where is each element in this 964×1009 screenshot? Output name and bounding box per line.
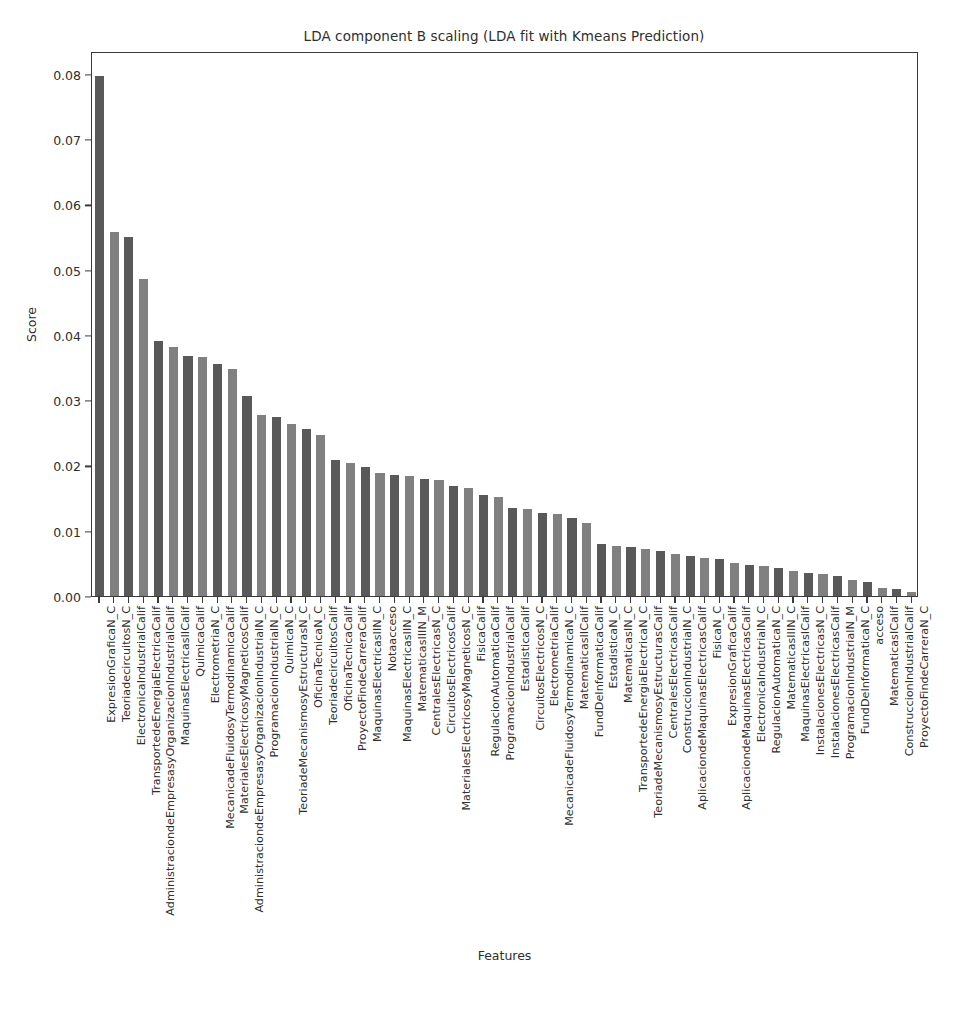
x-tick-label-text: ConstruccionIndustrialCalif xyxy=(904,606,915,756)
bar xyxy=(730,563,739,596)
x-tick-label: ExpresionGraficaCalif xyxy=(723,606,734,726)
x-tick-mark xyxy=(541,597,542,603)
x-tick-label-text: ProgramacionIndustrialN_M xyxy=(845,606,856,759)
bar xyxy=(538,513,547,596)
bar xyxy=(449,486,458,596)
x-tick-label-text: RegulacionAutomaticaN_C xyxy=(771,606,782,754)
x-tick-mark xyxy=(645,597,646,603)
x-tick-label-text: Notaacceso xyxy=(387,606,398,671)
x-tick-mark xyxy=(305,597,306,603)
x-tick-mark xyxy=(276,597,277,603)
x-tick-mark xyxy=(586,597,587,603)
x-tick-label-text: AplicaciondeMaquinasElectricasCalif xyxy=(741,606,752,810)
x-tick-mark xyxy=(128,597,129,603)
y-tick-label: 0.05 xyxy=(53,263,81,278)
bar xyxy=(686,556,695,596)
x-tick-label: MecanicadeFluidosyTermodinamicaN_C xyxy=(560,606,571,826)
x-tick-label: ElectronicaIndustrialN_C xyxy=(752,606,763,742)
x-tick-label-text: FisicaCalif xyxy=(476,606,487,662)
x-tick-label: MaquinasElectricasIICalif xyxy=(176,606,187,745)
x-tick-label-text: ProyectoFindeCarreraCalif xyxy=(357,606,368,751)
bar xyxy=(494,497,503,596)
x-tick-label-text: ProgramacionIndustrialCalif xyxy=(505,606,516,761)
x-tick-label-text: CircuitosElectricosN_C xyxy=(535,606,546,731)
x-tick-label: TeoriadeMecanismosyEstructurasN_C xyxy=(294,606,305,815)
x-tick-label: MatematicasIN_C xyxy=(619,606,630,703)
bar xyxy=(390,475,399,596)
y-tick-label: 0.07 xyxy=(53,133,81,148)
x-tick-label: InstalacionesElectricasCalif xyxy=(826,606,837,758)
x-tick-mark xyxy=(852,597,853,603)
x-tick-label-text: TeoriadecircuitosN_C xyxy=(121,606,132,722)
bar xyxy=(759,566,768,596)
x-tick-mark xyxy=(512,597,513,603)
x-tick-mark xyxy=(748,597,749,603)
bar xyxy=(213,364,222,596)
x-tick-label: ConstruccionIndustrialCalif xyxy=(900,606,911,756)
x-tick-label: InstalacionesElectricasN_C xyxy=(811,606,822,755)
x-tick-label: FundDeInformaticaN_C xyxy=(856,606,867,734)
bar xyxy=(892,589,901,596)
bar xyxy=(715,559,724,596)
bar xyxy=(700,558,709,597)
x-tick-mark xyxy=(217,597,218,603)
x-tick-label-text: InstalacionesElectricasCalif xyxy=(830,606,841,758)
x-tick-mark xyxy=(792,597,793,603)
x-tick-label-text: MaquinasElectricasIIN_C xyxy=(402,606,413,742)
x-tick-label: CircuitosElectricosN_C xyxy=(531,606,542,731)
x-tick-label: acceso xyxy=(870,606,881,645)
x-tick-mark xyxy=(364,597,365,603)
x-tick-label-text: ElectronicaIndustrialN_C xyxy=(756,606,767,742)
x-tick-label: ProgramacionIndustrialN_M xyxy=(841,606,852,759)
x-tick-label: TeoriadecircuitosCalif xyxy=(324,606,335,725)
x-tick-label: MaquinasElectricasIIN_C xyxy=(368,606,379,742)
x-tick-label-text: ElectrometriaN_C xyxy=(210,606,221,703)
x-tick-label-text: MecanicadeFluidosyTermodinamicaN_C xyxy=(564,606,575,826)
x-tick-mark xyxy=(911,597,912,603)
x-tick-label-text: QuimicaCalif xyxy=(195,606,206,677)
x-tick-label-text: ElectronicaIndustrialCalif xyxy=(136,606,147,745)
x-tick-mark xyxy=(202,597,203,603)
x-tick-mark xyxy=(778,597,779,603)
x-tick-mark xyxy=(660,597,661,603)
x-tick-mark xyxy=(261,597,262,603)
bar xyxy=(774,568,783,596)
x-tick-label-text: ExpresionGraficaCalif xyxy=(727,606,738,726)
x-tick-mark xyxy=(187,597,188,603)
x-tick-label: FundDeInformaticaCalif xyxy=(590,606,601,737)
x-tick-label-text: acceso xyxy=(874,606,885,645)
bar xyxy=(833,576,842,596)
x-tick-label-text: MatematicasIN_C xyxy=(623,606,634,703)
y-tick-label: 0.00 xyxy=(53,590,81,605)
y-tick-label: 0.08 xyxy=(53,67,81,82)
y-tick-label: 0.03 xyxy=(53,394,81,409)
x-tick-label-text: TeoriadeMecanismosyEstructurasCalif xyxy=(653,606,664,818)
x-tick-label: AplicaciondeMaquinasElectricasCalif xyxy=(693,606,704,810)
x-tick-mark xyxy=(600,597,601,603)
x-tick-label: MaquinasElectricasIIN_C xyxy=(398,606,409,742)
bar-series xyxy=(92,53,917,596)
x-tick-label: OficinaTecnicaN_C xyxy=(309,606,320,708)
x-tick-label: AplicaciondeMaquinasElectricasCalif xyxy=(737,606,748,810)
bar xyxy=(464,488,473,596)
x-tick-label: MaterialesElectricosyMagneticosN_C xyxy=(457,606,468,811)
x-tick-label-text: TeoriadecircuitosCalif xyxy=(328,606,339,725)
y-tick-label: 0.06 xyxy=(53,198,81,213)
bar xyxy=(597,544,606,596)
x-tick-label: CentralesElectricasN_C xyxy=(427,606,438,735)
bar xyxy=(169,347,178,596)
bar xyxy=(863,582,872,596)
bar xyxy=(878,588,887,596)
bar xyxy=(287,424,296,596)
x-tick-label: ElectrometriaN_C xyxy=(206,606,217,703)
x-tick-label: ConstruccionIndustrialN_C xyxy=(678,606,689,753)
bar xyxy=(302,429,311,596)
bar xyxy=(626,547,635,596)
bar xyxy=(641,549,650,596)
x-tick-mark xyxy=(379,597,380,603)
x-tick-label-text: ProyectoFindeCarreraN_C xyxy=(919,606,930,748)
x-tick-mark xyxy=(866,597,867,603)
x-tick-label-text: AdministraciondeEmpresasyOrganizacionInd… xyxy=(254,606,265,913)
x-tick-label: TeoriadeMecanismosyEstructurasCalif xyxy=(649,606,660,818)
x-tick-mark xyxy=(571,597,572,603)
